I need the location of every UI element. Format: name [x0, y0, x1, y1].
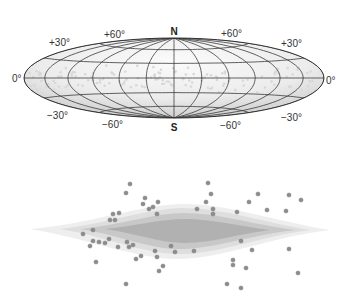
- north-pole-label: N: [170, 26, 177, 37]
- sky-object-dot: [72, 71, 75, 74]
- sky-object-dot: [99, 81, 102, 84]
- galaxy-object-dot: [155, 212, 159, 216]
- galaxy-object-dot: [141, 202, 145, 206]
- sky-object-dot: [204, 76, 207, 79]
- sky-object-dot: [130, 86, 133, 89]
- lat-label-0-right: 0°: [326, 75, 336, 86]
- galaxy-object-dot: [139, 254, 143, 258]
- galaxy-object-dot: [250, 248, 254, 252]
- sky-object-dot: [74, 75, 77, 78]
- sky-object-dot: [84, 73, 87, 76]
- sky-object-dot: [65, 86, 68, 89]
- galaxy-object-dot: [231, 263, 235, 267]
- sky-object-dot: [141, 85, 144, 88]
- sky-object-dot: [113, 73, 116, 76]
- sky-object-dot: [163, 83, 166, 86]
- sky-object-dot: [122, 83, 125, 86]
- sky-object-dot: [256, 91, 259, 94]
- sky-object-dot: [29, 85, 32, 88]
- lat-label-minus30-left: −30°: [47, 110, 68, 121]
- sky-object-dot: [288, 85, 291, 88]
- galaxy-object-dot: [128, 182, 132, 186]
- sky-object-dot: [66, 84, 69, 87]
- galaxy-object-dot: [153, 249, 157, 253]
- lat-label-plus60-left: +60°: [104, 29, 125, 40]
- sky-object-dot: [209, 88, 212, 91]
- sky-object-dot: [108, 82, 111, 85]
- sky-object-dot: [171, 84, 174, 87]
- sky-object-dot: [157, 71, 160, 74]
- sky-object-dot: [210, 74, 213, 77]
- sky-object-dot: [125, 78, 128, 81]
- sky-object-dot: [135, 84, 138, 87]
- sky-object-dot: [242, 79, 245, 82]
- galaxy-object-dot: [211, 207, 215, 211]
- sky-object-dot: [71, 75, 74, 78]
- galaxy-object-dot: [124, 191, 128, 195]
- galaxy-object-dot: [131, 243, 135, 247]
- lat-label-plus30-right: +30°: [281, 38, 302, 49]
- galaxy-object-dot: [108, 218, 112, 222]
- sky-object-dot: [65, 67, 68, 70]
- galaxy-object-dot: [211, 212, 215, 216]
- sky-object-dot: [234, 88, 237, 91]
- sky-object-dot: [168, 80, 171, 83]
- sky-object-dot: [160, 68, 163, 71]
- sky-object-dot: [58, 85, 61, 88]
- sky-object-dot: [273, 84, 276, 87]
- lat-label-minus30-right: −30°: [281, 112, 302, 123]
- sky-object-dot: [207, 86, 210, 89]
- sky-object-dot: [28, 72, 31, 75]
- sky-object-dot: [96, 82, 99, 85]
- galaxy-object-dot: [204, 200, 208, 204]
- sky-object-dot: [105, 64, 108, 67]
- sky-object-dot: [275, 70, 278, 73]
- sky-object-dot: [161, 79, 164, 82]
- sky-object-dot: [59, 71, 62, 74]
- sky-object-dot: [264, 86, 267, 89]
- edge-on-galaxy: [30, 181, 330, 290]
- galaxy-object-dot: [192, 249, 196, 253]
- galaxy-object-dot: [151, 205, 155, 209]
- galaxy-object-dot: [225, 282, 229, 286]
- sky-object-dot: [99, 79, 102, 82]
- galaxy-object-dot: [239, 286, 243, 290]
- sky-object-dot: [306, 72, 309, 75]
- south-pole-label: S: [171, 122, 178, 133]
- galaxy-object-dot: [161, 264, 165, 268]
- galaxy-object-dot: [173, 250, 177, 254]
- galaxy-object-dot: [206, 181, 210, 185]
- sky-object-dot: [38, 71, 41, 74]
- sky-object-dot: [300, 89, 303, 92]
- galaxy-object-dot: [107, 237, 111, 241]
- sky-object-dot: [246, 78, 249, 81]
- sky-object-dot: [124, 70, 127, 73]
- sky-object-dot: [221, 72, 224, 75]
- sky-object-dot: [33, 84, 36, 87]
- sky-object-dot: [60, 75, 63, 78]
- sky-object-dot: [184, 84, 187, 87]
- sky-object-dot: [286, 67, 289, 70]
- sky-object-dot: [143, 86, 146, 89]
- galaxy-object-dot: [125, 240, 129, 244]
- lat-label-plus30-left: +30°: [49, 37, 70, 48]
- sky-object-dot: [77, 84, 80, 87]
- galaxy-object-dot: [124, 282, 128, 286]
- galaxy-object-dot: [287, 193, 291, 197]
- lat-label-minus60-left: −60°: [102, 119, 123, 130]
- lat-label-minus60-right: −60°: [220, 120, 241, 131]
- sky-object-dot: [166, 80, 169, 83]
- galaxy-object-dot: [127, 245, 131, 249]
- galaxy-object-dot: [117, 211, 121, 215]
- sky-object-dot: [123, 80, 126, 83]
- figure-canvas: N S 0° 0° +30° +30° +60° +60° −30° −30° …: [0, 0, 353, 302]
- galaxy-object-dot: [156, 200, 160, 204]
- galaxy-object-dot: [157, 269, 161, 273]
- sky-object-dot: [311, 80, 314, 83]
- galaxy-object-dot: [147, 207, 151, 211]
- galaxy-object-dot: [231, 258, 235, 262]
- sky-object-dot: [87, 79, 90, 82]
- galaxy-object-dot: [287, 247, 291, 251]
- sky-object-dot: [174, 70, 177, 73]
- sky-object-dot: [39, 74, 42, 77]
